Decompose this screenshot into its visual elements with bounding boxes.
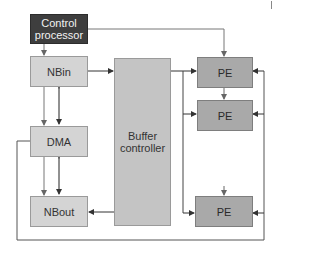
pe-block-3: PE [195,196,253,227]
pe-block-2: PE [197,100,253,131]
dma-label: DMA [47,136,71,148]
nbout-label: NBout [44,206,75,218]
pe-3-label: PE [217,206,232,218]
buffer-controller-block: Buffer controller [114,58,171,226]
nbin-label: NBin [47,66,71,78]
arrow-cp-to-pe1 [88,29,224,56]
nbout-block: NBout [30,196,88,227]
pe-block-1: PE [197,57,253,88]
nbin-block: NBin [30,56,88,87]
control-processor-label-2: processor [35,29,83,41]
buffer-controller-label-1: Buffer [128,130,157,142]
control-processor-label-1: Control [41,17,76,29]
control-processor-block: Control processor [30,14,88,44]
dma-block: DMA [30,126,88,157]
corner-mark [271,1,272,9]
pe-2-label: PE [218,110,233,122]
buffer-controller-label-2: controller [120,142,165,154]
pe-1-label: PE [218,67,233,79]
